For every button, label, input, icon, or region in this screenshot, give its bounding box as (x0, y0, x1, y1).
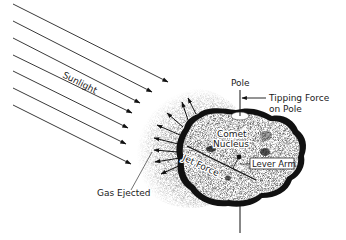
crater (260, 148, 270, 156)
sunlight-ray-arrow (13, 88, 126, 144)
label-sunlight: Sunlight (61, 70, 99, 96)
lever-arm-label-box: Lever Arm (250, 158, 296, 169)
label-nucleus: Nucleus (213, 139, 249, 149)
comet-tipping-diagram: Sunlight Pole Tipping Force on Pole Come… (0, 0, 346, 240)
label-comet: Comet (217, 129, 247, 139)
label-tipping-force: Tipping Force (268, 93, 330, 103)
crater (260, 131, 272, 141)
label-gas-ejected: Gas Ejected (97, 188, 151, 198)
crater (225, 176, 231, 181)
label-lever-arm: Lever Arm (252, 159, 296, 169)
label-tipping-force-on-pole: on Pole (269, 104, 302, 114)
sunlight-ray-arrow (13, 105, 131, 164)
label-pole: Pole (231, 78, 250, 88)
sunlight-ray-arrow (13, 38, 140, 103)
sunlight-ray-arrow (13, 4, 168, 82)
